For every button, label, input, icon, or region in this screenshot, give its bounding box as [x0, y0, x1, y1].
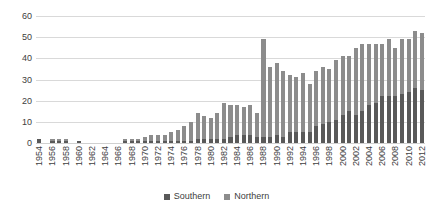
bar-column[interactable]	[247, 16, 254, 143]
bar-column[interactable]	[49, 16, 56, 143]
bar-segment-southern	[354, 115, 358, 143]
x-tick-slot: 1966	[115, 145, 122, 189]
bar-column[interactable]	[326, 16, 333, 143]
bar-column[interactable]	[142, 16, 149, 143]
bar-column[interactable]	[313, 16, 320, 143]
legend-item[interactable]: Northern	[224, 192, 269, 201]
x-tick-slot: 1992	[287, 145, 294, 189]
bar-column[interactable]	[82, 16, 89, 143]
bar-column[interactable]	[399, 16, 406, 143]
bar-column[interactable]	[214, 16, 221, 143]
bar-stack	[301, 73, 305, 143]
bar-segment-northern	[261, 39, 265, 136]
bar-column[interactable]	[392, 16, 399, 143]
bar-column[interactable]	[293, 16, 300, 143]
bar-stack	[413, 31, 417, 143]
bar-column[interactable]	[221, 16, 228, 143]
bar-segment-southern	[367, 105, 371, 143]
bar-column[interactable]	[227, 16, 234, 143]
bar-column[interactable]	[254, 16, 261, 143]
bar-column[interactable]	[412, 16, 419, 143]
bar-stack	[268, 67, 272, 143]
bar-segment-southern	[50, 141, 54, 143]
bar-column[interactable]	[234, 16, 241, 143]
bar-column[interactable]	[161, 16, 168, 143]
bar-column[interactable]	[240, 16, 247, 143]
bar-column[interactable]	[287, 16, 294, 143]
bar-column[interactable]	[89, 16, 96, 143]
bar-column[interactable]	[333, 16, 340, 143]
bar-column[interactable]	[135, 16, 142, 143]
x-tick-slot: 1994	[300, 145, 307, 189]
bar-column[interactable]	[346, 16, 353, 143]
bar-column[interactable]	[194, 16, 201, 143]
bar-segment-southern	[275, 135, 279, 143]
bar-column[interactable]	[300, 16, 307, 143]
bar-stack	[215, 113, 219, 143]
bar-column[interactable]	[260, 16, 267, 143]
bar-column[interactable]	[372, 16, 379, 143]
bar-segment-southern	[301, 132, 305, 143]
bar-column[interactable]	[181, 16, 188, 143]
bar-column[interactable]	[43, 16, 50, 143]
x-tick-slot: 1980	[207, 145, 214, 189]
bar-column[interactable]	[366, 16, 373, 143]
bar-column[interactable]	[379, 16, 386, 143]
bar-column[interactable]	[320, 16, 327, 143]
bar-segment-southern	[248, 135, 252, 143]
x-tick-slot: 1968	[128, 145, 135, 189]
bar-column[interactable]	[122, 16, 129, 143]
x-tick-slot: 1972	[155, 145, 162, 189]
bar-segment-northern	[228, 105, 232, 137]
bar-stack	[420, 33, 424, 143]
bar-column[interactable]	[339, 16, 346, 143]
bar-column[interactable]	[359, 16, 366, 143]
legend-item[interactable]: Southern	[164, 192, 211, 201]
bar-column[interactable]	[418, 16, 425, 143]
bar-segment-southern	[294, 132, 298, 143]
bar-column[interactable]	[62, 16, 69, 143]
bar-segment-southern	[235, 135, 239, 143]
bar-column[interactable]	[155, 16, 162, 143]
bar-stack	[341, 56, 345, 143]
bar-column[interactable]	[168, 16, 175, 143]
x-tick-slot: 2012	[418, 145, 425, 189]
bar-column[interactable]	[148, 16, 155, 143]
bar-column[interactable]	[405, 16, 412, 143]
bar-column[interactable]	[188, 16, 195, 143]
x-tick-slot: 2004	[366, 145, 373, 189]
bar-column[interactable]	[353, 16, 360, 143]
bar-column[interactable]	[201, 16, 208, 143]
bar-column[interactable]	[267, 16, 274, 143]
bar-column[interactable]	[273, 16, 280, 143]
bar-column[interactable]	[95, 16, 102, 143]
bar-column[interactable]	[76, 16, 83, 143]
bar-stack	[222, 103, 226, 143]
bar-column[interactable]	[306, 16, 313, 143]
y-tick-label: 60	[22, 11, 32, 21]
bar-column[interactable]	[174, 16, 181, 143]
x-tick-slot: 1988	[260, 145, 267, 189]
bar-segment-northern	[308, 84, 312, 133]
x-tick-slot: 1990	[273, 145, 280, 189]
bar-segment-southern	[130, 141, 134, 143]
bar-stack	[235, 105, 239, 143]
bar-column[interactable]	[115, 16, 122, 143]
bar-segment-northern	[182, 126, 186, 141]
bar-segment-northern	[222, 103, 226, 139]
bar-column[interactable]	[109, 16, 116, 143]
bar-segment-southern	[393, 96, 397, 143]
bar-stack	[281, 71, 285, 143]
gridline-0	[36, 143, 425, 144]
bar-column[interactable]	[207, 16, 214, 143]
bar-column[interactable]	[102, 16, 109, 143]
bar-stack	[321, 67, 325, 143]
bar-column[interactable]	[280, 16, 287, 143]
bar-stack	[288, 75, 292, 143]
bar-column[interactable]	[128, 16, 135, 143]
bar-segment-southern	[163, 141, 167, 143]
bar-column[interactable]	[56, 16, 63, 143]
bar-column[interactable]	[385, 16, 392, 143]
bar-column[interactable]	[69, 16, 76, 143]
bar-column[interactable]	[36, 16, 43, 143]
